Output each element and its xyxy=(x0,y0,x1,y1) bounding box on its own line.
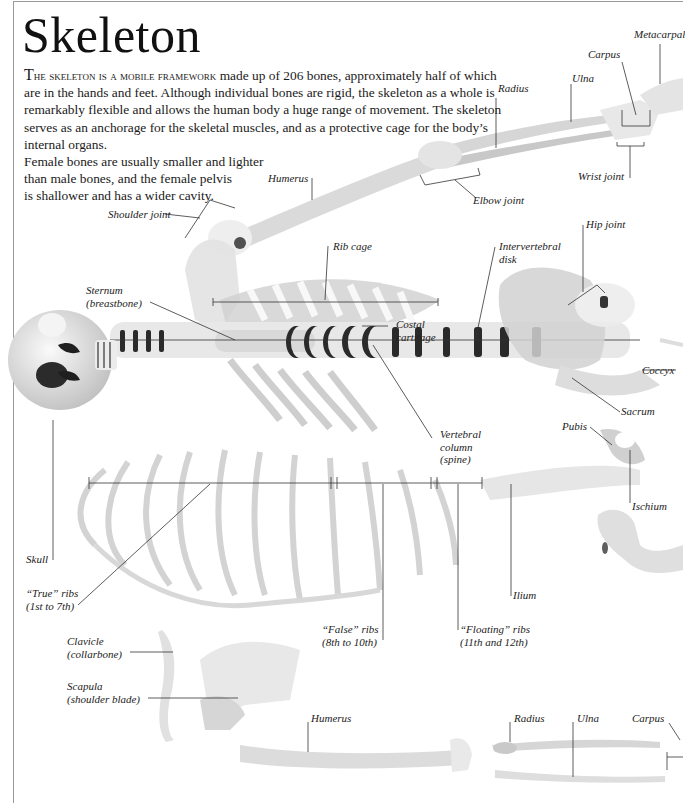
label-false-ribs: “False” ribs (8th to 10th) xyxy=(322,623,379,648)
label-intervertebral-disk: Intervertebral disk xyxy=(499,240,561,265)
label-hip-joint: Hip joint xyxy=(586,218,625,231)
label-elbow-joint: Elbow joint xyxy=(473,194,524,207)
label-rib-cage: Rib cage xyxy=(333,240,372,253)
label-carpus-top: Carpus xyxy=(588,48,620,61)
label-floating-ribs: “Floating” ribs (11th and 12th) xyxy=(460,623,530,648)
label-radius-bottom: Radius xyxy=(514,712,545,725)
label-wrist-joint: Wrist joint xyxy=(578,170,624,183)
label-sacrum: Sacrum xyxy=(621,405,655,418)
label-shoulder-joint: Shoulder joint xyxy=(108,208,171,221)
label-true-ribs: “True” ribs (1st to 7th) xyxy=(26,587,78,612)
skull xyxy=(8,310,117,410)
lower-arm-set xyxy=(158,630,665,783)
label-metacarpal: Metacarpal xyxy=(634,28,685,41)
label-ulna-bottom: Ulna xyxy=(577,712,599,725)
label-sternum: Sternum (breastbone) xyxy=(86,284,142,309)
label-scapula: Scapula (shoulder blade) xyxy=(67,680,140,705)
label-vertebral-column: Vertebral column (spine) xyxy=(440,428,481,466)
label-costal-cartilage: Costal cartilage xyxy=(396,318,436,343)
label-clavicle: Clavicle (collarbone) xyxy=(67,635,122,660)
label-ischium: Ischium xyxy=(632,500,667,513)
label-radius-top: Radius xyxy=(498,82,529,95)
leader-lines xyxy=(53,44,683,777)
label-skull: Skull xyxy=(26,553,48,566)
label-ulna-top: Ulna xyxy=(572,72,594,85)
label-humerus-top: Humerus xyxy=(268,172,308,185)
label-humerus-bottom: Humerus xyxy=(311,712,351,725)
label-pubis: Pubis xyxy=(562,420,587,433)
label-coccyx: Coccyx xyxy=(642,364,674,377)
label-carpus-bottom: Carpus xyxy=(632,712,664,725)
rib-cage-lower xyxy=(230,360,375,430)
label-ilium: Ilium xyxy=(513,589,536,602)
